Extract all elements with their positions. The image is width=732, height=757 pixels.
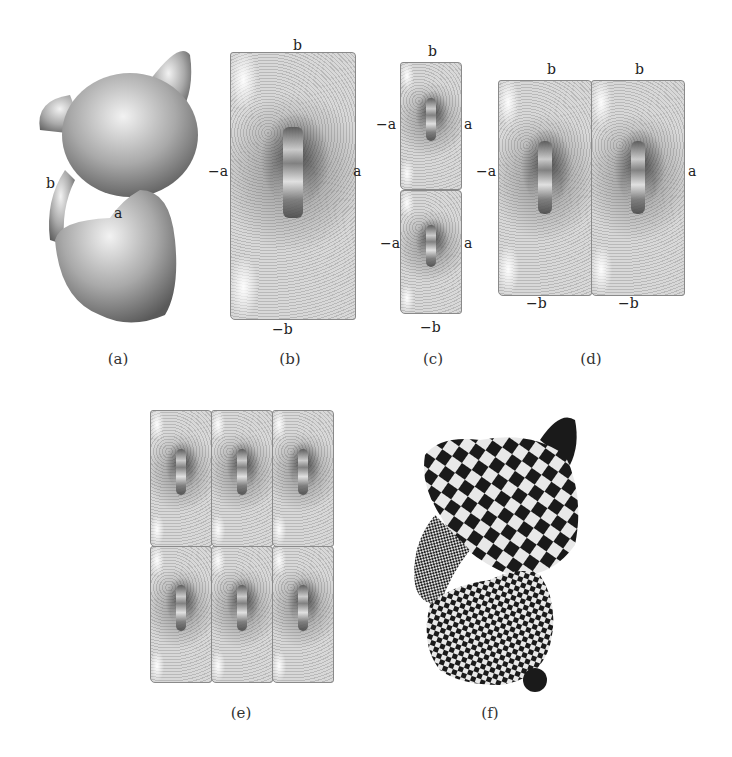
parameterization-tile-top [400,62,462,190]
tile-r2c2 [211,546,273,683]
cut-label-a: a [114,206,122,220]
parameterization-tile-left [498,80,592,296]
panel-e-tiling [150,410,335,685]
panel-a-kitten: b a [30,40,210,330]
caption-b: (b) [279,350,300,368]
caption-e: (e) [231,704,252,722]
caption-c: (c) [423,350,443,368]
kitten-checkerboard-image [400,405,580,695]
panel-f-checker-kitten [400,405,580,695]
caption-a: (a) [108,350,129,368]
panel-b-single-tile: b −b −a a [200,30,380,340]
caption-f: (f) [481,704,498,722]
edge-label-left: −a [476,164,496,178]
edge-label-top-left: b [547,62,556,76]
tile-r1c2 [211,410,273,547]
tile-r1c3 [272,410,334,547]
parameterization-tile-bottom [400,190,462,314]
tile-r2c1 [150,546,212,683]
kitten-shaded-image [30,40,210,330]
edge-label-top: b [428,44,437,58]
edge-label-top-right: b [635,62,644,76]
parameterization-tile-right [591,80,685,296]
edge-label-top: b [293,38,302,52]
edge-label-left-lower: −a [380,236,400,250]
caption-d: (d) [580,350,601,368]
edge-label-bottom: −b [272,322,293,336]
edge-label-right: a [353,164,361,178]
edge-label-left: −a [208,164,228,178]
edge-label-left-upper: −a [376,117,396,131]
parameterization-tile [230,52,356,320]
edge-label-bottom-right: −b [618,296,639,310]
cut-label-b: b [46,176,55,190]
tile-r1c1 [150,410,212,547]
tile-r2c3 [272,546,334,683]
panel-d-side-by-side: b b −b −b −a a [470,30,710,340]
edge-label-bottom-left: −b [526,296,547,310]
edge-label-right: a [688,164,696,178]
edge-label-bottom: −b [420,320,441,334]
